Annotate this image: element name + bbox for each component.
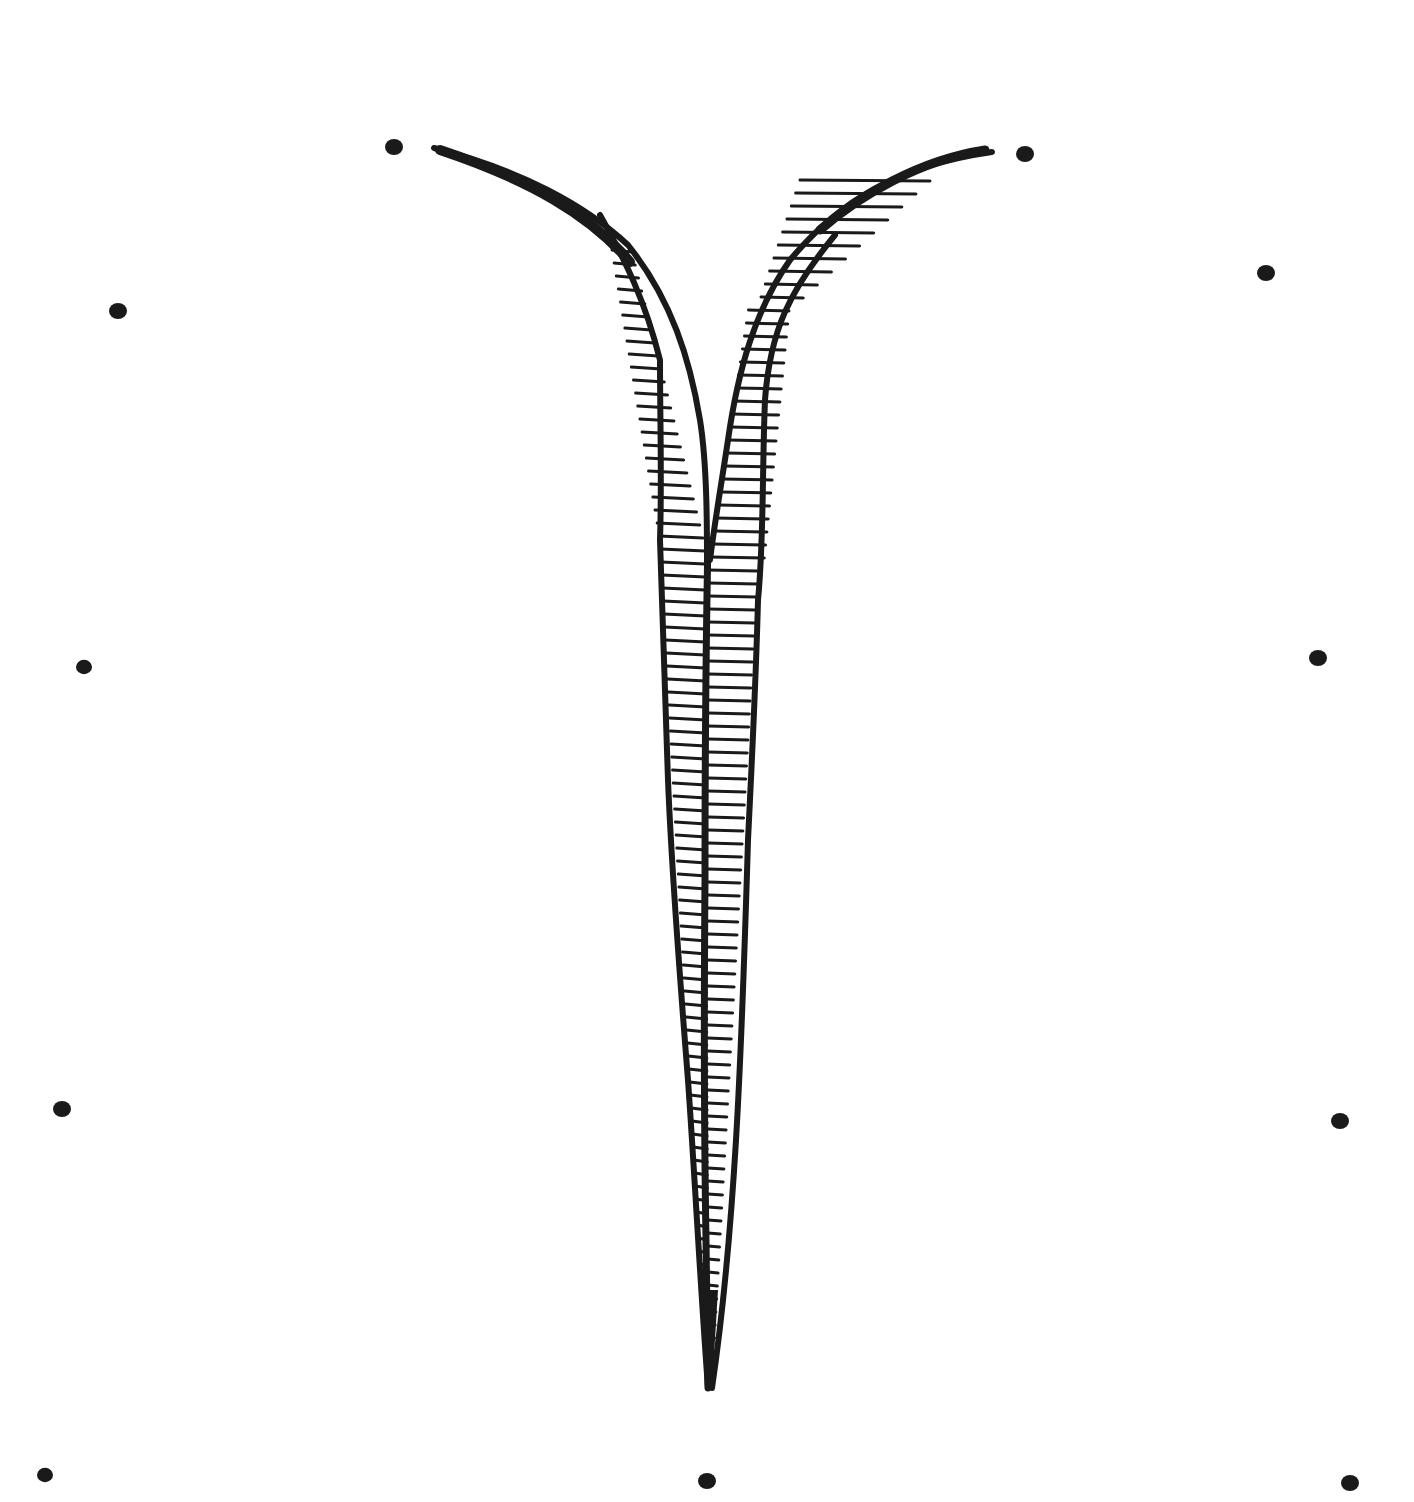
- dot: [1016, 146, 1034, 162]
- dot: [698, 1473, 716, 1489]
- dot: [1309, 650, 1327, 666]
- hatching-right: [708, 180, 930, 1377]
- dot: [109, 303, 127, 319]
- dot: [76, 660, 92, 674]
- dot: [385, 139, 403, 155]
- ink-drawing: [0, 0, 1414, 1502]
- dot: [1331, 1113, 1349, 1129]
- dot: [37, 1468, 53, 1482]
- dot: [53, 1101, 71, 1117]
- left-strand: [434, 148, 708, 1388]
- dot: [1257, 265, 1275, 281]
- dot: [1341, 1475, 1359, 1491]
- dots-group: [37, 139, 1359, 1491]
